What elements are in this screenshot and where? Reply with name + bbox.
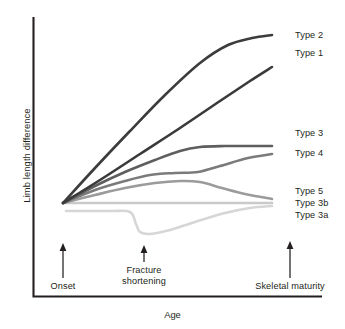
y-axis-title: Limb length difference bbox=[21, 81, 32, 231]
limb-length-difference-chart: Type 2 Type 1 Type 3 Type 4 Type 5 Type … bbox=[0, 0, 345, 329]
annotation-label-skeletal-maturity: Skeletal maturity bbox=[237, 281, 343, 292]
x-axis-title: Age bbox=[0, 309, 345, 320]
onset-arrow bbox=[60, 243, 67, 278]
annotation-label-fracture-shortening: Fracture shortening bbox=[110, 265, 178, 287]
series-label-type-1: Type 1 bbox=[295, 48, 323, 59]
annotation-label-onset: Onset bbox=[38, 281, 88, 292]
skeletal-maturity-arrow bbox=[287, 241, 294, 278]
series-label-type-2: Type 2 bbox=[295, 30, 323, 41]
series-curves-group bbox=[63, 35, 272, 234]
fracture-label-line-2: shortening bbox=[110, 276, 178, 287]
chart-axes bbox=[34, 18, 322, 297]
curve-type-3a bbox=[66, 206, 272, 234]
fracture-label-line-1: Fracture bbox=[110, 265, 178, 276]
series-label-type-5: Type 5 bbox=[295, 186, 323, 197]
series-label-type-4: Type 4 bbox=[295, 148, 323, 159]
fracture-shortening-arrow bbox=[141, 245, 148, 262]
series-label-type-3: Type 3 bbox=[295, 128, 323, 139]
series-label-type-3a: Type 3a bbox=[295, 210, 328, 221]
curve-type-2 bbox=[63, 35, 272, 203]
series-label-type-3b: Type 3b bbox=[295, 198, 328, 209]
